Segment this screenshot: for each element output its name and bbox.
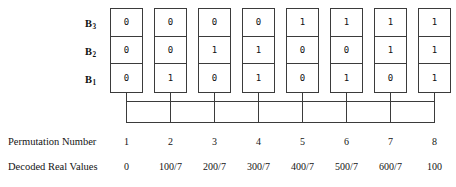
bit-column: 001 [154, 8, 187, 93]
drop-stem-3 [214, 101, 215, 122]
permutation-number-7: 7 [369, 137, 413, 147]
bit-cell-b1-2: 1 [155, 64, 186, 92]
decoded-real-value-6: 500/7 [325, 162, 369, 172]
box-stem-6 [346, 93, 347, 101]
bit-column: 101 [330, 8, 363, 93]
bit-cell-b1-6: 1 [331, 64, 362, 92]
bit-cell-b2-5: 0 [287, 37, 318, 65]
decoded-real-values-label: Decoded Real Values [8, 162, 98, 173]
bit-cell-b1-4: 1 [243, 64, 274, 92]
bit-column: 000 [110, 8, 143, 93]
lower-bracket-bar [126, 122, 435, 123]
box-stem-4 [258, 93, 259, 101]
drop-stem-5 [302, 101, 303, 122]
permutation-number-label: Permutation Number [8, 137, 96, 148]
row-label-b1-subscript: 1 [93, 79, 97, 87]
drop-stem-1 [126, 101, 127, 122]
row-label-b3-subscript: 3 [93, 23, 97, 31]
bit-cell-b1-3: 0 [199, 64, 230, 92]
bit-column: 111 [418, 8, 451, 93]
permutation-number-8: 8 [413, 137, 456, 147]
bit-cell-b3-4: 0 [243, 9, 274, 37]
bit-cell-b1-1: 0 [111, 64, 142, 92]
bit-cell-b1-8: 1 [419, 64, 450, 92]
drop-stem-4 [258, 101, 259, 122]
bit-cell-b3-6: 1 [331, 9, 362, 37]
box-stem-2 [170, 93, 171, 101]
row-label-b1-name: B [85, 74, 92, 85]
permutation-number-3: 3 [193, 137, 237, 147]
permutation-number-1: 1 [105, 137, 149, 147]
decoded-real-value-2: 100/7 [149, 162, 193, 172]
bit-column: 110 [374, 8, 407, 93]
decoded-real-value-1: 0 [105, 162, 149, 172]
box-stem-3 [214, 93, 215, 101]
bit-cell-b2-6: 0 [331, 37, 362, 65]
bit-cell-b2-1: 0 [111, 37, 142, 65]
drop-stem-6 [346, 101, 347, 122]
bit-cell-b3-7: 1 [375, 9, 406, 37]
bit-cell-b2-7: 1 [375, 37, 406, 65]
permutation-number-4: 4 [237, 137, 281, 147]
bit-cell-b2-8: 1 [419, 37, 450, 65]
bit-column: 100 [286, 8, 319, 93]
drop-stem-8 [434, 101, 435, 122]
bit-cell-b2-2: 0 [155, 37, 186, 65]
bit-cell-b2-4: 1 [243, 37, 274, 65]
bit-column: 010 [198, 8, 231, 93]
drop-stem-2 [170, 101, 171, 122]
bit-cell-b1-5: 0 [287, 64, 318, 92]
bit-cell-b3-8: 1 [419, 9, 450, 37]
bit-cell-b3-3: 0 [199, 9, 230, 37]
bit-cell-b3-1: 0 [111, 9, 142, 37]
row-label-b2-name: B [85, 46, 92, 57]
drop-stem-7 [390, 101, 391, 122]
upper-bracket-bar [126, 101, 435, 102]
permutation-number-5: 5 [281, 137, 325, 147]
decoded-real-value-5: 400/7 [281, 162, 325, 172]
decoded-real-value-4: 300/7 [237, 162, 281, 172]
row-label-b1: B1 [62, 75, 96, 86]
decoded-real-value-8: 100 [413, 162, 456, 172]
binary-permutation-figure: B3 B2 B1 000001010011100101110111 Permut… [0, 0, 456, 187]
bit-cell-b2-3: 1 [199, 37, 230, 65]
box-stem-7 [390, 93, 391, 101]
box-stem-8 [434, 93, 435, 101]
bit-cell-b1-7: 0 [375, 64, 406, 92]
decoded-real-value-7: 600/7 [369, 162, 413, 172]
bit-cell-b3-5: 1 [287, 9, 318, 37]
row-label-b2: B2 [62, 47, 96, 58]
row-label-b2-subscript: 2 [93, 51, 97, 59]
row-label-b3: B3 [62, 19, 96, 30]
row-label-b3-name: B [85, 18, 92, 29]
permutation-number-2: 2 [149, 137, 193, 147]
bit-column: 011 [242, 8, 275, 93]
decoded-real-value-3: 200/7 [193, 162, 237, 172]
permutation-number-6: 6 [325, 137, 369, 147]
box-stem-1 [126, 93, 127, 101]
bit-cell-b3-2: 0 [155, 9, 186, 37]
box-stem-5 [302, 93, 303, 101]
